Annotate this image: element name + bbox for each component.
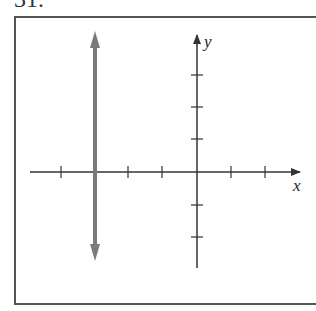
vertical-line-x-neg3 [90, 31, 100, 261]
y-axis-label: y [202, 32, 212, 51]
arrow-up-icon [90, 31, 100, 48]
arrow-down-icon [90, 244, 100, 261]
x-axis: x [30, 166, 301, 195]
coordinate-plane: x y [0, 0, 316, 311]
y-axis: y [191, 32, 212, 268]
x-axis-label: x [292, 176, 301, 195]
